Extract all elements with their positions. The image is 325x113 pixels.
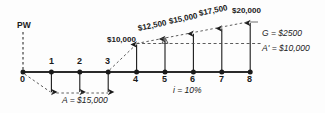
axis-tick-7: 7 <box>219 75 224 84</box>
axis-tick-1: 1 <box>49 57 54 66</box>
axis-tick-4: 4 <box>133 75 138 84</box>
gradient-note-text: G = $2500 <box>262 28 302 38</box>
outflow-note-text: A = $15,000 <box>62 95 108 105</box>
outflow-arrows <box>51 72 108 92</box>
inflow-label-period-8: $20,000 <box>232 7 261 15</box>
gradient-envelope-dashed <box>110 22 251 71</box>
axis-tick-6: 6 <box>190 75 195 84</box>
base-annuity-note-label: A' = $10,000 <box>262 44 310 53</box>
gradient-note-label: G = $2500 <box>262 29 302 38</box>
cash-flow-diagram: PW 0 1 2 3 4 5 6 7 8 $10,000 $12,500 $15… <box>0 0 325 113</box>
interest-rate-note: i = 10% <box>173 86 202 95</box>
outflow-note-label: A = $15,000 <box>62 96 108 105</box>
axis-tick-2: 2 <box>77 57 82 66</box>
axis-tick-3: 3 <box>105 57 110 66</box>
base-annuity-note-text: A' = $10,000 <box>262 43 310 53</box>
inflow-label-period-4: $10,000 <box>107 36 136 44</box>
axis-tick-0: 0 <box>20 75 25 84</box>
interest-rate-text: i = 10% <box>173 85 202 95</box>
pw-label: PW <box>17 21 31 30</box>
inflow-arrows <box>137 23 251 72</box>
axis-tick-5: 5 <box>162 75 167 84</box>
axis-tick-8: 8 <box>247 75 252 84</box>
outflow-envelope-dashed <box>25 74 109 93</box>
